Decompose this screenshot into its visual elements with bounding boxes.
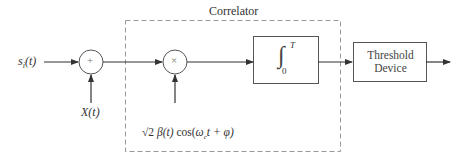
integrator-box (254, 37, 319, 84)
integral-lower-limit: 0 (282, 66, 287, 76)
sqrt-two: √2 (142, 126, 154, 138)
reference-signal-label: √2 β(t) cos(ωct + φ) (142, 126, 234, 141)
input-signal-label: si(t) (18, 54, 36, 70)
integral-symbol: ∫ (278, 42, 285, 69)
input-signal-arg: (t) (25, 54, 36, 68)
beta-term: β(t) (157, 126, 174, 138)
threshold-line-2: Device (354, 62, 427, 75)
noise-label: X(t) (81, 105, 100, 120)
integral-upper-limit: T (290, 40, 295, 50)
phase-term: t + φ) (207, 126, 234, 138)
correlator-receiver-diagram: Correlator si(t) + X(t) × √2 β(t) cos(ωc… (0, 0, 469, 162)
omega-term: ω (196, 126, 204, 138)
diagram-lines (0, 0, 469, 162)
cos-term: cos( (174, 126, 196, 138)
threshold-device-label: Threshold Device (354, 49, 427, 75)
threshold-line-1: Threshold (354, 49, 427, 62)
correlator-label: Correlator (209, 4, 258, 19)
adder-symbol: + (87, 54, 93, 66)
multiplier-symbol: × (171, 54, 177, 66)
